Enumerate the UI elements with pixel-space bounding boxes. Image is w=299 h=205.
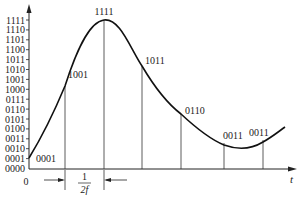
y-axis-arrow-icon bbox=[27, 4, 32, 13]
sample-label: 1001 bbox=[68, 69, 88, 80]
y-tick-labels: 1111 1110 1101 1100 1011 1010 1001 1000 … bbox=[5, 15, 25, 175]
sample-label: 1011 bbox=[145, 55, 165, 66]
sample-label: 0001 bbox=[36, 153, 56, 164]
y-axis bbox=[27, 4, 32, 169]
analog-waveform bbox=[29, 20, 285, 158]
sample-lines bbox=[65, 20, 263, 169]
arrow-right-icon bbox=[58, 178, 65, 182]
x-axis-arrow-icon bbox=[288, 167, 297, 172]
fraction-numerator: 1 bbox=[82, 171, 87, 182]
fraction-denominator: 2f bbox=[81, 184, 90, 195]
sample-label: 1111 bbox=[95, 6, 114, 17]
x-axis-label: t bbox=[290, 173, 294, 185]
arrow-left-icon bbox=[104, 178, 111, 182]
sampling-interval-annotation: 1 2f bbox=[44, 170, 127, 195]
sample-label: 0011 bbox=[249, 127, 269, 138]
origin-label: 0 bbox=[24, 176, 29, 187]
sample-label: 0110 bbox=[185, 105, 205, 116]
x-axis: t 0 bbox=[24, 167, 298, 188]
sampling-quantization-diagram: t 0 1111 1110 1101 1100 1011 1010 1001 1… bbox=[0, 0, 299, 205]
sample-label: 0011 bbox=[223, 130, 243, 141]
y-tick-label: 0000 bbox=[5, 163, 25, 174]
sample-labels: 0001 1001 1111 1011 0110 0011 0011 bbox=[36, 6, 269, 164]
